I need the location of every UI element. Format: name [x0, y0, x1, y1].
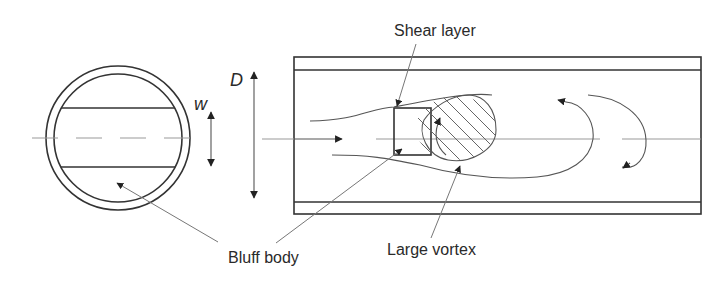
shear-layer-leader — [397, 44, 416, 106]
bluff-body-label: Bluff body — [228, 249, 299, 266]
bluff-body-diagram: w D — [0, 0, 715, 283]
bluff-body-leader-right — [276, 149, 402, 243]
shear-layer-label: Shear layer — [394, 22, 476, 39]
large-vortex-label: Large vortex — [387, 241, 476, 258]
vortex-return-arrow — [558, 100, 566, 102]
pipe-outer-outline — [294, 57, 701, 214]
vortex-outline — [422, 95, 496, 161]
d-symbol: D — [230, 70, 243, 90]
downstream-vortex-curve — [588, 95, 646, 167]
lower-shear-streamline — [332, 102, 593, 178]
bluff-body-leader-left — [117, 183, 218, 242]
cross-section-view: w — [32, 66, 211, 210]
w-symbol: w — [194, 94, 208, 114]
diameter-dimension: D — [230, 70, 254, 198]
longitudinal-section — [262, 57, 701, 214]
inner-pipe-wall — [54, 74, 182, 202]
